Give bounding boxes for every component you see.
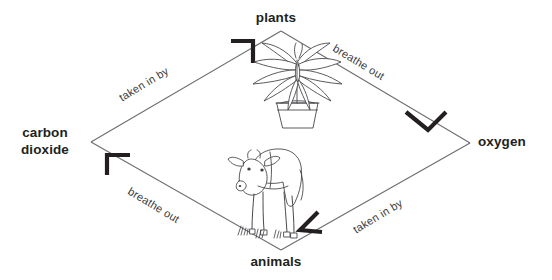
cow-ear xyxy=(228,157,243,166)
grass-tuft xyxy=(274,230,281,238)
plant-pot xyxy=(277,103,318,128)
cow-horn xyxy=(248,150,251,158)
cow-illustration xyxy=(228,149,303,238)
cow-hoof xyxy=(291,233,297,238)
cow-hoof xyxy=(250,229,255,234)
cow-eye xyxy=(260,169,263,172)
cow-eye xyxy=(247,168,250,171)
arrowhead-to-plants xyxy=(231,41,253,63)
edge-line-oxygen-to-animals xyxy=(281,143,470,250)
potted-plant-illustration xyxy=(253,43,342,128)
node-label-plants: plants xyxy=(0,9,552,26)
cow-hoof xyxy=(284,232,290,237)
cow-leg xyxy=(263,192,264,230)
cow-leg xyxy=(252,194,254,229)
arrowhead-to-oxygen xyxy=(406,112,446,130)
node-label-animals: animals xyxy=(0,253,552,270)
node-label-oxygen: oxygen xyxy=(478,133,550,150)
cycle-diagram: plants oxygen animals carbon dioxide tak… xyxy=(0,0,552,280)
plant-leaf xyxy=(295,43,297,58)
cow-nostril xyxy=(239,185,242,187)
node-label-carbon-dioxide: carbon dioxide xyxy=(4,124,86,159)
grass-tufts xyxy=(238,226,281,238)
